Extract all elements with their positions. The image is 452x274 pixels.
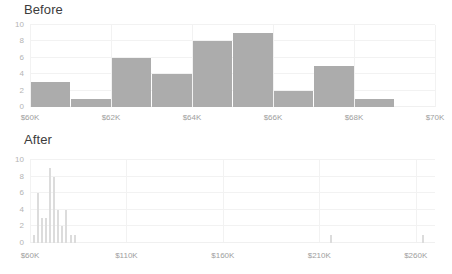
histogram-bar <box>41 218 43 243</box>
histogram-bar <box>53 177 55 243</box>
y-axis-tick-label: 4 <box>20 70 24 78</box>
chart-title-before: Before <box>24 2 63 18</box>
histogram-bar <box>355 99 395 107</box>
histogram-bar <box>45 218 47 243</box>
histogram-bar <box>152 74 192 107</box>
y-axis-tick-label: 2 <box>20 222 24 230</box>
histogram-bar <box>330 235 332 243</box>
y-axis-tick-label: 10 <box>15 21 24 29</box>
x-axis-tick-label: $260K <box>404 252 427 260</box>
histogram-bar <box>71 99 111 107</box>
histogram-bar <box>193 41 233 107</box>
histogram-comparison-figure: Before 0246810 $60K$62K$64K$66K$68K$70K … <box>0 0 452 274</box>
histogram-bar <box>31 82 71 107</box>
x-axis-tick-label: $160K <box>211 252 234 260</box>
gridline-vertical <box>354 25 355 107</box>
gridline-horizontal <box>30 24 435 25</box>
histogram-bar <box>422 235 424 243</box>
plot-area-after: 0246810 <box>30 160 435 243</box>
y-axis-tick-label: 0 <box>20 239 24 247</box>
gridline-horizontal <box>30 176 435 177</box>
histogram-bar <box>37 193 39 243</box>
y-axis-tick-label: 8 <box>20 37 24 45</box>
y-axis-tick-label: 6 <box>20 189 24 197</box>
x-axis-tick-label: $60K <box>21 114 40 122</box>
y-axis-tick-label: 4 <box>20 206 24 214</box>
histogram-bar <box>57 210 59 243</box>
y-axis-tick-label: 6 <box>20 54 24 62</box>
gridline-vertical <box>223 160 224 243</box>
x-axis-tick-label: $68K <box>345 114 364 122</box>
chart-panel-before: Before 0246810 $60K$62K$64K$66K$68K$70K <box>0 0 452 132</box>
x-axis-tick-label: $70K <box>426 114 445 122</box>
chart-title-after: After <box>24 132 52 148</box>
chart-panel-after: After 0246810 $60K$110K$160K$210K$260K <box>0 130 452 274</box>
histogram-bar <box>112 58 152 107</box>
y-axis-tick-label: 0 <box>20 103 24 111</box>
histogram-bar <box>33 235 35 243</box>
gridline-vertical <box>126 160 127 243</box>
x-axis-tick-label: $62K <box>102 114 121 122</box>
histogram-bar <box>274 91 314 107</box>
gridline-vertical <box>416 160 417 243</box>
x-axis-tick-label: $210K <box>308 252 331 260</box>
gridline-vertical <box>319 160 320 243</box>
y-axis-tick-label: 2 <box>20 87 24 95</box>
y-axis-tick-label: 8 <box>20 173 24 181</box>
gridline-horizontal <box>30 159 435 160</box>
histogram-bar <box>65 210 67 243</box>
x-axis-tick-label: $64K <box>183 114 202 122</box>
histogram-bar <box>49 168 51 243</box>
histogram-bar <box>314 66 354 107</box>
gridline-horizontal <box>30 225 435 226</box>
histogram-bar <box>70 235 72 243</box>
gridline-vertical <box>435 25 436 107</box>
plot-area-before: 0246810 <box>30 25 435 107</box>
x-axis-tick-label: $60K <box>21 252 40 260</box>
gridline-horizontal <box>30 192 435 193</box>
gridline-horizontal <box>30 209 435 210</box>
y-axis-tick-label: 10 <box>15 156 24 164</box>
histogram-bar <box>61 226 63 243</box>
histogram-bar <box>233 33 273 107</box>
x-axis-tick-label: $110K <box>115 252 138 260</box>
x-axis-tick-label: $66K <box>264 114 283 122</box>
gridline-vertical <box>30 160 31 243</box>
x-axis-baseline <box>30 242 435 243</box>
histogram-bar <box>74 235 76 243</box>
